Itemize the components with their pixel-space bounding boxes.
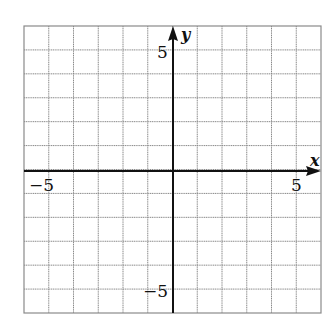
x-axis-label: x <box>309 151 320 170</box>
coordinate-plane: x y −5 5 5 −5 <box>0 0 335 332</box>
x-tick-label-neg5: −5 <box>29 175 54 195</box>
y-tick-label-pos5: 5 <box>157 42 168 62</box>
y-axis-label: y <box>180 25 192 44</box>
y-tick-label-neg5: −5 <box>143 281 168 301</box>
y-axis-arrow-icon <box>168 26 178 41</box>
x-tick-label-pos5: 5 <box>291 175 302 195</box>
